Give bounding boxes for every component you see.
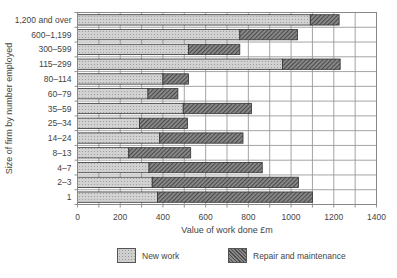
bar-new-work xyxy=(78,103,184,113)
legend-label: Repair and maintenance xyxy=(253,251,346,261)
y-tick-label: 60–79 xyxy=(48,89,72,99)
legend: New work Repair and maintenance xyxy=(0,248,397,270)
bar-new-work xyxy=(78,118,140,128)
x-tick-label: 1000 xyxy=(282,212,301,222)
x-tick-label: 1200 xyxy=(324,212,343,222)
legend-label: New work xyxy=(142,251,179,261)
y-tick-label: 14–24 xyxy=(48,133,72,143)
bar-repair-maintenance xyxy=(158,192,313,202)
legend-item-repair-maintenance: Repair and maintenance xyxy=(228,248,346,263)
repair-maintenance-swatch xyxy=(228,248,247,263)
y-tick-label: 80–114 xyxy=(44,74,72,84)
bar-repair-maintenance xyxy=(148,89,178,99)
bar-new-work xyxy=(78,59,283,69)
bar-repair-maintenance xyxy=(189,44,240,54)
bar-new-work xyxy=(78,162,150,172)
y-tick-label: 1 xyxy=(67,192,72,202)
y-axis-title: Size of firm by number employed xyxy=(4,43,14,175)
x-tick-label: 400 xyxy=(156,212,170,222)
bar-new-work xyxy=(78,74,163,84)
bar-new-work xyxy=(78,192,158,202)
y-tick-label: 300–599 xyxy=(38,44,71,54)
bar-repair-maintenance xyxy=(310,15,339,25)
y-tick-label: 35–59 xyxy=(48,104,72,114)
x-tick-label: 200 xyxy=(113,212,127,222)
bar-repair-maintenance xyxy=(139,118,187,128)
x-axis-title: Value of work done £m xyxy=(181,225,272,235)
y-tick-label: 1,200 and over xyxy=(15,15,72,25)
y-tick-label: 2–3 xyxy=(57,177,71,187)
x-tick-label: 800 xyxy=(241,212,255,222)
y-tick-label: 600–1,199 xyxy=(31,30,71,40)
bar-repair-maintenance xyxy=(152,177,298,187)
x-tick-label: 0 xyxy=(75,212,80,222)
new-work-swatch xyxy=(117,248,136,263)
y-tick-label: 115–299 xyxy=(39,59,72,69)
bar-repair-maintenance xyxy=(149,162,262,172)
x-tick-labels: 0200400600800100012001400 xyxy=(75,212,386,222)
bar-repair-maintenance xyxy=(129,148,191,158)
bar-new-work xyxy=(78,133,160,143)
bar-repair-maintenance xyxy=(283,59,341,69)
bar-new-work xyxy=(78,44,189,54)
x-tick-label: 600 xyxy=(199,212,213,222)
bar-new-work xyxy=(78,15,311,25)
bar-repair-maintenance xyxy=(240,29,298,39)
bar-new-work xyxy=(78,177,153,187)
bars xyxy=(78,15,341,203)
bar-new-work xyxy=(78,29,240,39)
bar-repair-maintenance xyxy=(160,133,243,143)
y-tick-label: 4–7 xyxy=(57,163,71,173)
bar-repair-maintenance xyxy=(163,74,189,84)
y-tick-labels: 1,200 and over600–1,199300–599115–29980–… xyxy=(15,15,72,202)
y-tick-label: 25–34 xyxy=(48,118,72,128)
bar-new-work xyxy=(78,148,129,158)
legend-item-new-work: New work xyxy=(117,248,179,263)
x-tick-label: 1400 xyxy=(367,212,386,222)
bar-new-work xyxy=(78,89,148,99)
bar-repair-maintenance xyxy=(183,103,251,113)
chart: 1,200 and over600–1,199300–599115–29980–… xyxy=(0,0,397,248)
y-tick-label: 8–13 xyxy=(53,148,72,158)
